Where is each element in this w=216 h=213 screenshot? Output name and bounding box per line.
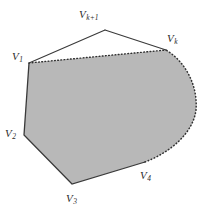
- vertex-label-v2-letter: V: [5, 127, 12, 139]
- vertex-label-vk1-letter: V: [79, 8, 86, 20]
- vertex-label-v1-subscript: 1: [19, 55, 23, 64]
- vertex-label-vk1: Vk+1: [79, 9, 98, 22]
- vertex-label-v4: V4: [140, 170, 151, 183]
- shaded-region: [24, 50, 196, 184]
- vertex-label-v2: V2: [5, 128, 16, 141]
- geometry-diagram: [0, 0, 216, 213]
- figure-root: V1 V2 V3 V4 Vk Vk+1: [0, 0, 216, 213]
- vertex-label-vk: Vk: [167, 33, 178, 46]
- vertex-label-vk-letter: V: [167, 32, 174, 44]
- vertex-label-v1: V1: [12, 51, 23, 64]
- vertex-label-v3: V3: [66, 193, 77, 206]
- apex-edge-vk1-to-vk: [105, 30, 166, 50]
- vertex-label-v4-letter: V: [140, 169, 147, 181]
- vertex-label-vk1-subscript: k+1: [86, 13, 99, 22]
- vertex-label-v1-letter: V: [12, 50, 19, 62]
- vertex-label-v3-subscript: 3: [73, 197, 77, 206]
- vertex-label-v2-subscript: 2: [12, 132, 16, 141]
- vertex-label-v3-letter: V: [66, 192, 73, 204]
- vertex-label-v4-subscript: 4: [147, 174, 151, 183]
- vertex-label-vk-subscript: k: [174, 37, 178, 46]
